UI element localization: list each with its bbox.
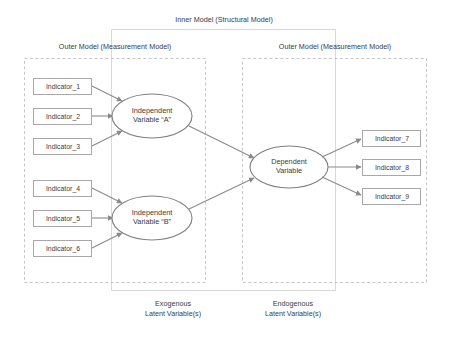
- endogenous-line2: Latent Variable(s): [243, 309, 343, 319]
- exogenous-line2: Latent Variable(s): [123, 309, 223, 319]
- outer-model-right-title: Outer Model (Measurement Model): [245, 42, 425, 52]
- indicator-1-label: Indicator_1: [34, 83, 92, 91]
- inner-model-title: Inner Model (Structural Model): [160, 15, 288, 25]
- indicator-5-label: Indicator_5: [34, 215, 92, 223]
- independent-variable-b-label: Independent Variable “B”: [112, 208, 192, 227]
- independent-variable-a-label: Independent Variable “A”: [112, 106, 192, 125]
- dependent-variable-line2: Variable: [250, 166, 328, 175]
- indicator-6-label: Indicator_6: [34, 245, 92, 253]
- diagram-canvas: Inner Model (Structural Model) Outer Mod…: [0, 0, 449, 345]
- arrow-dependent-to-indicator-9: [322, 177, 361, 195]
- dependent-variable-label: Dependent Variable: [250, 157, 328, 176]
- arrow-independent-b-to-dependent: [189, 178, 254, 209]
- independent-variable-a-line1: Independent: [112, 106, 192, 115]
- indicator-8-label: Indicator_8: [363, 164, 421, 172]
- exogenous-latent-variable-label: Exogenous Latent Variable(s): [123, 299, 223, 318]
- indicator-9-label: Indicator_9: [363, 193, 421, 201]
- endogenous-latent-variable-label: Endogenous Latent Variable(s): [243, 299, 343, 318]
- dependent-variable-line1: Dependent: [250, 157, 328, 166]
- arrow-indicator-4-to-independent-b: [92, 188, 122, 203]
- arrow-dependent-to-indicator-7: [322, 139, 361, 157]
- independent-variable-b-line1: Independent: [112, 208, 192, 217]
- endogenous-line1: Endogenous: [243, 299, 343, 309]
- arrow-indicator-1-to-independent-a: [92, 86, 122, 101]
- indicator-4-label: Indicator_4: [34, 185, 92, 193]
- indicator-3-label: Indicator_3: [34, 143, 92, 151]
- arrow-indicator-6-to-independent-b: [92, 233, 122, 248]
- independent-variable-a-line2: Variable “A”: [112, 115, 192, 124]
- exogenous-line1: Exogenous: [123, 299, 223, 309]
- indicator-7-label: Indicator_7: [363, 135, 421, 143]
- outer-model-left-title: Outer Model (Measurement Model): [28, 42, 202, 52]
- arrow-indicator-3-to-independent-a: [92, 131, 122, 146]
- indicator-2-label: Indicator_2: [34, 113, 92, 121]
- sem-path-diagram: [0, 0, 449, 345]
- arrow-independent-a-to-dependent: [189, 126, 254, 158]
- independent-variable-b-line2: Variable “B”: [112, 217, 192, 226]
